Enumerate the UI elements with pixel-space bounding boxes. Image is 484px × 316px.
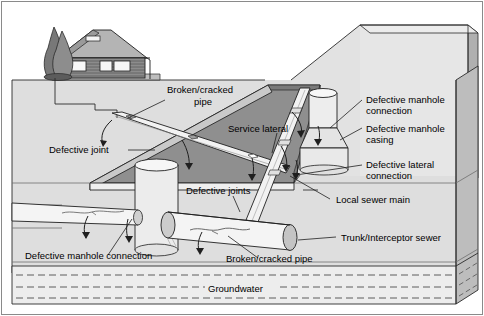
label-defective-manhole-connection-bottom: Defective manhole connection [25, 250, 152, 261]
label-defective-joints-mid: Defective joints [186, 185, 251, 196]
label-defective-joint: Defective joint [49, 144, 109, 155]
label-service-lateral: Service lateral [228, 123, 288, 134]
trunk-end-left [161, 212, 175, 238]
label-broken-cracked-pipe-bottom: Broken/cracked pipe [226, 253, 313, 264]
label-broken-cracked-pipe-top-line1: Broken/cracked [167, 84, 233, 95]
gable-vent [86, 36, 100, 41]
manhole-rim-lower [135, 159, 178, 171]
label-trunk-interceptor-sewer: Trunk/Interceptor sewer [341, 232, 441, 243]
diagram-stage: Broken/cracked pipe Service lateral Defe… [0, 0, 484, 316]
label-groundwater: Groundwater [208, 283, 263, 294]
soil-block-right-face [456, 66, 478, 304]
house-window-right-b [114, 61, 130, 71]
label-broken-cracked-pipe-top-line2: pipe [194, 96, 212, 107]
manhole-lower [135, 159, 178, 256]
sewer-diagram-svg: Broken/cracked pipe Service lateral Defe… [0, 0, 484, 316]
label-local-sewer-main: Local sewer main [336, 194, 410, 205]
label-defective-lateral-connection-line2: connection [366, 170, 412, 181]
house-window-right-a [100, 61, 112, 71]
label-defective-lateral-connection-line1: Defective lateral [366, 159, 434, 170]
label-defective-manhole-casing-line2: casing [366, 134, 393, 145]
manhole-rim-upper [309, 89, 337, 98]
tree-base [44, 74, 72, 81]
label-defective-manhole-casing-line1: Defective manhole [366, 123, 445, 134]
label-defective-manhole-connection-top-line1: Defective manhole [366, 94, 445, 105]
trunk-end-right [283, 225, 297, 251]
left-pipe-end [134, 210, 143, 225]
label-defective-manhole-connection-top-line2: connection [366, 105, 412, 116]
